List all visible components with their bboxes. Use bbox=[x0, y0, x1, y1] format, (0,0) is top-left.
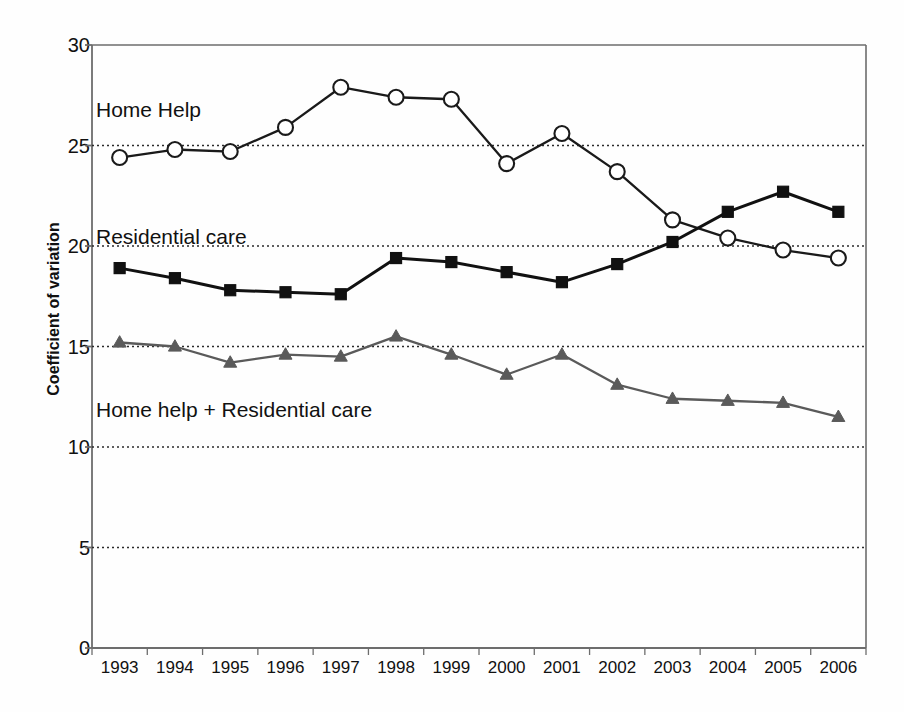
marker-home-help-10 bbox=[665, 212, 680, 227]
marker-residential-care-1 bbox=[169, 273, 180, 284]
marker-residential-care-3 bbox=[280, 287, 291, 298]
marker-home-help-8 bbox=[554, 126, 569, 141]
marker-home-help-2 bbox=[223, 144, 238, 159]
series-home-help bbox=[112, 80, 846, 266]
marker-home-help-9 bbox=[610, 164, 625, 179]
marker-residential-care-0 bbox=[114, 263, 125, 274]
marker-home-help-1 bbox=[167, 142, 182, 157]
chart-container: Coefficient of variation 302520151050 19… bbox=[0, 0, 904, 712]
series-home-help-residential-care bbox=[113, 330, 845, 422]
marker-home-help-0 bbox=[112, 150, 127, 165]
marker-residential-care-12 bbox=[778, 186, 789, 197]
marker-home-help-7 bbox=[499, 156, 514, 171]
marker-residential-care-13 bbox=[833, 206, 844, 217]
marker-residential-care-4 bbox=[335, 289, 346, 300]
marker-residential-care-8 bbox=[556, 277, 567, 288]
plot-area bbox=[0, 0, 904, 712]
marker-home-help-12 bbox=[776, 243, 791, 258]
marker-home-help-residential-care-3 bbox=[279, 348, 292, 359]
marker-home-help-4 bbox=[333, 80, 348, 95]
marker-residential-care-11 bbox=[722, 206, 733, 217]
marker-home-help-residential-care-9 bbox=[611, 378, 624, 389]
marker-home-help-13 bbox=[831, 251, 846, 266]
marker-residential-care-6 bbox=[446, 257, 457, 268]
marker-home-help-residential-care-8 bbox=[555, 348, 568, 359]
marker-home-help-residential-care-5 bbox=[390, 330, 403, 341]
marker-home-help-11 bbox=[720, 230, 735, 245]
marker-home-help-3 bbox=[278, 120, 293, 135]
marker-home-help-6 bbox=[444, 92, 459, 107]
marker-residential-care-5 bbox=[391, 253, 402, 264]
marker-residential-care-7 bbox=[501, 267, 512, 278]
marker-home-help-residential-care-0 bbox=[113, 336, 126, 347]
marker-residential-care-10 bbox=[667, 236, 678, 247]
marker-residential-care-2 bbox=[225, 285, 236, 296]
marker-residential-care-9 bbox=[612, 259, 623, 270]
marker-home-help-5 bbox=[389, 90, 404, 105]
